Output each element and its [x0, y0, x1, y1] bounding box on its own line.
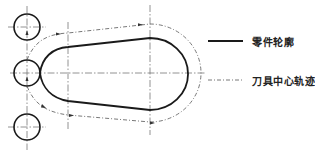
legend-label-part-contour: 零件轮廓: [252, 34, 294, 49]
arrow-icon: [69, 114, 74, 117]
arrow-icon: [41, 104, 46, 108]
centerlines: [8, 5, 205, 150]
arrow-icon: [26, 76, 29, 81]
arrow-icon: [26, 30, 29, 35]
legend-label-tool-path: 刀具中心轨迹: [252, 73, 315, 88]
arrow-icon: [138, 23, 143, 26]
part-contour: [40, 38, 188, 110]
arrow-icon: [56, 33, 61, 36]
